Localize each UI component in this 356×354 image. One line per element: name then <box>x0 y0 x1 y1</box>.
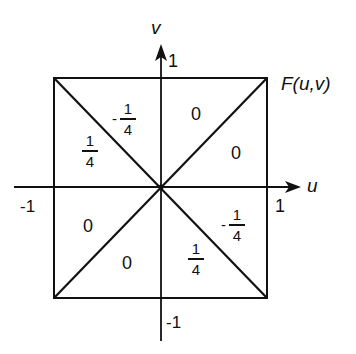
region-lower-left-outer: 0 <box>83 217 93 235</box>
region-numerator: 1 <box>122 101 134 118</box>
region-numerator: 1 <box>231 207 243 224</box>
u-axis-neg-tick: -1 <box>20 198 35 215</box>
region-sign: - <box>221 216 226 233</box>
region-upper-right-inner: 0 <box>191 105 201 123</box>
region-numerator: 1 <box>190 241 202 258</box>
region-denominator: 4 <box>86 152 94 169</box>
u-axis-pos-tick: 1 <box>275 197 285 215</box>
region-numerator: 1 <box>84 133 96 150</box>
region-upper-left-inner: - 1 4 <box>112 101 136 137</box>
region-upper-right-outer: 0 <box>231 144 241 162</box>
u-axis-label: u <box>307 176 318 195</box>
region-denominator: 4 <box>192 260 200 277</box>
region-lower-right-inner: 1 4 <box>188 241 204 277</box>
v-axis-label: v <box>151 18 161 37</box>
region-lower-right-outer: - 1 4 <box>221 207 245 243</box>
origin-point <box>159 185 164 190</box>
region-upper-left-outer: 1 4 <box>82 133 98 169</box>
region-denominator: 4 <box>233 226 241 243</box>
v-axis-pos-tick: 1 <box>168 52 178 70</box>
region-lower-left-inner: 0 <box>122 254 132 272</box>
region-denominator: 4 <box>124 120 132 137</box>
function-label: F(u,v) <box>281 74 331 93</box>
region-sign: - <box>112 110 117 127</box>
v-axis-neg-tick: -1 <box>166 314 181 331</box>
